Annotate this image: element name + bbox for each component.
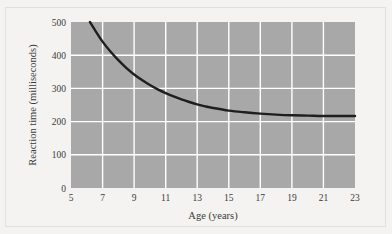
x-tick-15: 15 (224, 193, 234, 203)
x-tick-7: 7 (100, 193, 105, 203)
y-axis-tick-labels: 0 100 200 300 400 500 (52, 18, 67, 194)
x-tick-17: 17 (256, 193, 266, 203)
x-tick-19: 19 (287, 193, 297, 203)
y-axis-title: Reaction time (milliseconds) (27, 44, 39, 166)
x-tick-23: 23 (350, 193, 360, 203)
x-tick-9: 9 (132, 193, 137, 203)
y-tick-0: 0 (61, 184, 66, 194)
x-tick-21: 21 (319, 193, 329, 203)
y-tick-300: 300 (52, 84, 67, 94)
x-tick-11: 11 (161, 193, 170, 203)
y-tick-500: 500 (52, 18, 67, 28)
plot-background (71, 22, 355, 188)
y-tick-100: 100 (52, 150, 67, 160)
x-tick-13: 13 (192, 193, 202, 203)
y-tick-200: 200 (52, 117, 67, 127)
chart-canvas: 0 100 200 300 400 500 5 7 9 11 13 15 17 … (0, 0, 392, 234)
y-tick-400: 400 (52, 51, 67, 61)
x-axis-title: Age (years) (188, 210, 238, 222)
chart-figure: 0 100 200 300 400 500 5 7 9 11 13 15 17 … (0, 0, 392, 234)
x-tick-5: 5 (69, 193, 74, 203)
x-axis-tick-labels: 5 7 9 11 13 15 17 19 21 23 (69, 193, 360, 203)
